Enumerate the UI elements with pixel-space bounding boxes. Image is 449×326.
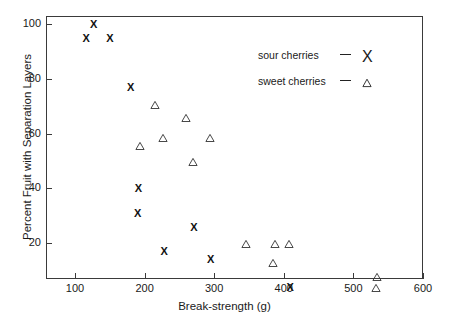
legend-dash-sweet-cherries xyxy=(340,80,351,81)
x-marker-glyph: X xyxy=(90,18,98,30)
x-marker-glyph: X xyxy=(134,207,142,219)
legend-label-sweet-cherries: sweet cherries xyxy=(258,75,326,87)
x-tick-label: 100 xyxy=(55,283,95,294)
x-tick-label: 500 xyxy=(333,283,373,294)
triangle-marker-glyph xyxy=(284,235,294,245)
triangle-marker-glyph xyxy=(181,109,191,119)
legend-marker-triangle-icon xyxy=(362,74,374,88)
legend-dash-sour-cherries xyxy=(340,54,351,55)
scatter-chart-figure: 20406080100 100200300400500600 XXXXXXXXX… xyxy=(0,0,449,326)
x-tick-mark xyxy=(423,273,424,279)
x-tick-mark xyxy=(214,273,215,279)
x-marker-glyph: X xyxy=(127,81,135,93)
triangle-marker-glyph xyxy=(205,129,215,139)
y-tick-mark xyxy=(46,188,52,189)
chart-legend: sour cherries X sweet cherries xyxy=(258,42,418,94)
triangle-marker-glyph xyxy=(158,129,168,139)
triangle-marker-glyph xyxy=(270,235,280,245)
y-tick-mark xyxy=(46,79,52,80)
x-tick-mark xyxy=(284,273,285,279)
triangle-marker-glyph xyxy=(268,254,278,264)
triangle-marker-glyph xyxy=(188,153,198,163)
y-tick-mark xyxy=(46,243,52,244)
y-axis-label: Percent Fruit with Separation Layers xyxy=(21,17,33,277)
x-marker-glyph: X xyxy=(190,221,198,233)
triangle-marker-glyph xyxy=(135,137,145,147)
x-axis-label: Break-strength (g) xyxy=(0,300,449,312)
x-tick-label: 600 xyxy=(403,283,443,294)
x-marker-glyph: X xyxy=(82,32,90,44)
y-tick-mark xyxy=(46,24,52,25)
triangle-marker-glyph xyxy=(241,235,251,245)
legend-entry-sweet-cherries: sweet cherries xyxy=(258,68,418,94)
x-tick-label: 300 xyxy=(194,283,234,294)
legend-entry-sour-cherries: sour cherries X xyxy=(258,42,418,68)
x-tick-mark xyxy=(353,273,354,279)
x-marker-glyph: X xyxy=(362,48,373,65)
legend-marker-x-icon: X xyxy=(362,48,374,62)
triangle-marker-glyph xyxy=(362,74,372,91)
x-tick-mark xyxy=(145,273,146,279)
x-tick-label: 400 xyxy=(264,283,304,294)
y-tick-mark xyxy=(46,134,52,135)
legend-label-sour-cherries: sour cherries xyxy=(258,49,319,61)
x-marker-glyph: X xyxy=(160,245,168,257)
x-marker-glyph: X xyxy=(106,32,114,44)
triangle-marker-glyph xyxy=(372,268,382,278)
x-marker-glyph: X xyxy=(207,253,215,265)
x-tick-label: 200 xyxy=(125,283,165,294)
x-marker-glyph: X xyxy=(286,281,294,293)
x-tick-mark xyxy=(75,273,76,279)
x-marker-glyph: X xyxy=(134,182,142,194)
triangle-marker-glyph xyxy=(150,96,160,106)
